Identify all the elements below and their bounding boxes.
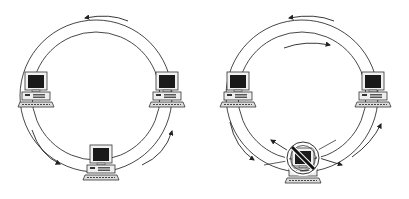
flow-arrow-top-inner [284,43,330,48]
workstation-left-icon [18,72,54,107]
wrap-line-left [264,161,287,165]
failed-ring-panel [220,16,391,183]
ring-topology-diagram [0,0,409,199]
workstation-right-icon [355,72,391,107]
wrap-line-right [318,140,336,150]
workstation-left-icon [220,72,256,107]
workstation-bottom-icon [83,145,119,180]
flow-arrow-bottom-right [142,131,172,165]
normal-ring-panel [18,16,185,180]
flow-arrow-bottom-left [32,130,60,164]
workstation-right-icon [149,72,185,107]
inner-ring [32,32,160,160]
flow-arrow-bottom-left [230,122,254,160]
